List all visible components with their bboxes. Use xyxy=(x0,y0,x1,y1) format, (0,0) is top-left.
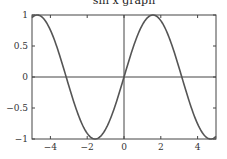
y-tick-label: −0.5 xyxy=(6,103,28,113)
x-tick-label: 2 xyxy=(158,142,164,152)
chart: sin x graph −4−2024 −1−0.500.51 xyxy=(0,0,227,159)
y-tick-label: 0.5 xyxy=(14,41,29,51)
y-tick-label: −1 xyxy=(15,134,28,144)
x-tick-label: 0 xyxy=(121,142,127,152)
y-tick-label: 0 xyxy=(22,72,28,82)
y-tick-label: 1 xyxy=(22,10,28,20)
chart-title: sin x graph xyxy=(93,0,155,7)
x-tick-label: −2 xyxy=(81,142,94,152)
x-tick-label: 4 xyxy=(195,142,201,152)
x-tick-label: −4 xyxy=(44,142,58,152)
